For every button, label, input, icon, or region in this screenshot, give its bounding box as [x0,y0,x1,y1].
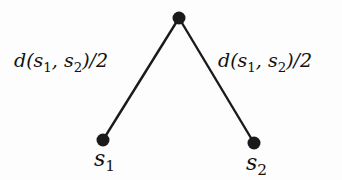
edge-label-fn: d( [218,49,238,71]
node-label-sub: 1 [105,157,115,175]
edge-label-sep: , [256,49,268,71]
edge-label-right: d(s1, s2)/2 [218,49,312,71]
tree-diagram: d(s1, s2)/2 d(s1, s2)/2 s1 s2 [0,0,342,180]
edge-label-sub: 2 [74,60,82,75]
edge-label-var: s [34,49,44,71]
edge-label-sep: , [52,49,64,71]
edge-label-tail: )/2 [82,49,108,71]
edge-label-fn: d( [14,49,34,71]
node-label-var: s [246,150,257,175]
s1-node [97,134,110,147]
edge-label-sub: 1 [43,60,51,75]
node-label-s2: s2 [246,150,267,175]
edge-label-var: s [268,49,278,71]
node-label-sub: 2 [257,161,267,179]
node-label-var: s [94,146,105,171]
edge-label-var: s [64,49,74,71]
s2-node [248,137,261,150]
tree-graphic [0,0,342,180]
edge-label-sub: 2 [278,60,286,75]
node-label-s1: s1 [94,146,115,171]
root-node [173,12,186,25]
edge-root-s1 [103,18,179,140]
edge-label-var: s [238,49,248,71]
edge-label-left: d(s1, s2)/2 [14,49,108,71]
edge-label-tail: )/2 [286,49,312,71]
edge-root-s2 [179,18,254,143]
edge-label-sub: 1 [247,60,255,75]
